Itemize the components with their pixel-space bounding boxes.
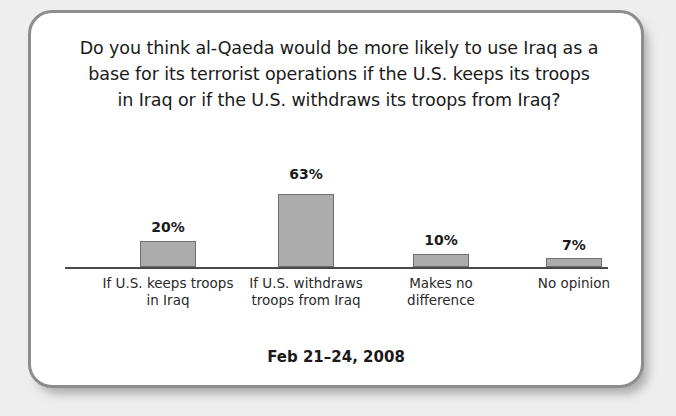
bar-rect: [413, 254, 469, 267]
bar-group-keeps-troops: 20% If U.S. keeps troops in Iraq: [102, 143, 234, 333]
bar-column: 20%: [102, 143, 234, 269]
bar-group-no-opinion: 7% No opinion: [508, 143, 640, 333]
bar-category-label-line-1: If U.S. withdraws: [240, 275, 372, 292]
bar-category-label-line-2: in Iraq: [102, 292, 234, 309]
bar-category-label-line-2: troops from Iraq: [240, 292, 372, 309]
bar-value-label: 20%: [102, 219, 234, 235]
bar-value-label: 7%: [508, 237, 640, 253]
bar-category-label: If U.S. keeps troops in Iraq: [102, 275, 234, 309]
bar-category-label: Makes no difference: [375, 275, 507, 309]
bar-column: 63%: [240, 143, 372, 269]
question-line-3: in Iraq or if the U.S. withdraws its tro…: [53, 87, 625, 113]
bar-category-label: If U.S. withdraws troops from Iraq: [240, 275, 372, 309]
bar-category-label-line-1: Makes no: [375, 275, 507, 292]
bar-chart: 20% If U.S. keeps troops in Iraq 63% If …: [31, 143, 641, 333]
bar-category-label-line-1: If U.S. keeps troops: [102, 275, 234, 292]
poll-card: Do you think al-Qaeda would be more like…: [28, 10, 644, 388]
bar-group-makes-no-difference: 10% Makes no difference: [375, 143, 507, 333]
bar-value-label: 63%: [240, 166, 372, 182]
question-text: Do you think al-Qaeda would be more like…: [53, 35, 625, 113]
bar-category-label-line-2: difference: [375, 292, 507, 309]
bar-rect: [140, 241, 196, 267]
bar-rect: [546, 258, 602, 267]
bar-value-label: 10%: [375, 232, 507, 248]
survey-date-label: Feb 21–24, 2008: [31, 348, 641, 366]
bar-category-label: No opinion: [508, 275, 640, 292]
bar-column: 10%: [375, 143, 507, 269]
bar-rect: [278, 194, 334, 267]
bar-column: 7%: [508, 143, 640, 269]
question-line-2: base for its terrorist operations if the…: [53, 61, 625, 87]
bar-group-withdraws-troops: 63% If U.S. withdraws troops from Iraq: [240, 143, 372, 333]
bar-category-label-line-1: No opinion: [508, 275, 640, 292]
question-line-1: Do you think al-Qaeda would be more like…: [53, 35, 625, 61]
